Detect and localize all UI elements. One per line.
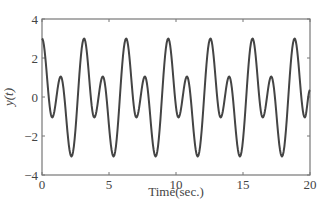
y-axis-label-text: y(t) bbox=[1, 88, 16, 108]
y-tick-label: 0 bbox=[32, 90, 39, 105]
line-chart: 05101520 420−2−4 Time(sec.) y(t) bbox=[0, 0, 324, 213]
x-tick-label: 0 bbox=[39, 177, 46, 192]
x-tick-label: 20 bbox=[304, 177, 317, 192]
y-axis-label: y(t) bbox=[1, 88, 16, 108]
y-tick-label: −2 bbox=[24, 129, 38, 144]
x-axis-label: Time(sec.) bbox=[148, 184, 204, 199]
x-tick-label: 5 bbox=[106, 177, 113, 192]
signal-curve bbox=[42, 39, 310, 157]
y-tick-label: 4 bbox=[32, 12, 39, 27]
x-tick-label: 15 bbox=[237, 177, 250, 192]
y-tick-label: 2 bbox=[32, 51, 39, 66]
y-tick-label: −4 bbox=[24, 168, 38, 183]
